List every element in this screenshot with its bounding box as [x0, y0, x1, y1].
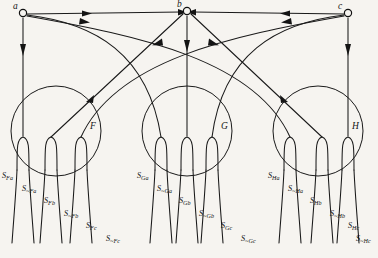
signal-label-not-Ha: S~Ha — [288, 185, 303, 193]
edge-a-to-b — [27, 9, 187, 16]
signal-subscript: Fc — [90, 225, 97, 231]
signal-label-not-Fb: S~Fb — [64, 210, 78, 218]
signal-subscript: Gb — [183, 200, 191, 206]
circle-label-F: F — [90, 122, 96, 132]
signal-subscript: ~Fc — [110, 238, 120, 244]
signal-label-Fc: SFc — [86, 222, 97, 230]
arrowhead-a-to-b-mid — [82, 11, 92, 17]
arrowhead-a-down — [20, 44, 26, 56]
edge-c-vertical — [345, 18, 351, 136]
signal-subscript: ~Ha — [292, 188, 303, 194]
edge-b-vertical — [184, 16, 190, 136]
arrowhead-a-to-G — [79, 18, 90, 25]
signal-label-Hb: SHb — [310, 197, 322, 205]
signal-label-not-Gc: S~Gc — [241, 235, 256, 243]
signal-label-not-Fa: S~Fa — [22, 185, 36, 193]
signal-label-Gc: SGc — [221, 222, 232, 230]
arrowhead-c-to-F — [152, 39, 163, 46]
edge-b-to-F — [51, 14, 183, 137]
node-label-a: a — [13, 2, 18, 12]
arrowhead-b-down — [184, 40, 190, 52]
signal-subscript: ~Fa — [26, 188, 36, 194]
signal-label-Ha: SHa — [268, 172, 280, 180]
signal-subscript: ~Ga — [161, 188, 172, 194]
signal-label-Fb: SFb — [44, 197, 55, 205]
arrowhead-c-down — [345, 44, 351, 56]
signal-subscript: Gc — [225, 225, 232, 231]
signal-label-Gb: SGb — [179, 197, 191, 205]
edge-a-vertical — [20, 18, 26, 136]
edge-a-to-G — [27, 15, 161, 137]
signal-subscript: Hb — [314, 200, 322, 206]
signal-subscript: Fb — [48, 200, 55, 206]
diagram-vector-layer — [0, 0, 378, 258]
signal-subscript: Hc — [352, 225, 359, 231]
diagram-canvas: a b c F G H SFa S~Fa SFb S~Fb SFc S~Fc S… — [0, 0, 378, 258]
circle-label-G: G — [221, 122, 228, 132]
signal-label-not-Gb: S~Gb — [199, 210, 214, 218]
node-label-c: c — [338, 2, 342, 12]
signal-label-not-Hb: S~Hb — [330, 210, 345, 218]
signal-label-not-Fc: S~Fc — [106, 235, 120, 243]
signal-subscript: ~Gc — [245, 238, 256, 244]
signal-subscript: ~Hc — [360, 238, 371, 244]
edge-a-to-H — [27, 16, 290, 137]
node-label-b: b — [177, 0, 182, 10]
edge-c-to-G — [212, 15, 344, 137]
signal-subscript: ~Fb — [68, 213, 78, 219]
signal-label-not-Hc: S~Hc — [356, 235, 371, 243]
arrowhead-c-to-G — [281, 18, 292, 25]
edge-c-to-b — [187, 9, 344, 16]
signal-label-Hc: SHc — [348, 222, 359, 230]
signal-subscript: Ga — [141, 175, 149, 181]
signal-subscript: ~Hb — [334, 213, 345, 219]
signal-label-not-Ga: S~Ga — [157, 185, 172, 193]
signal-subscript: Ha — [272, 175, 280, 181]
arrowhead-c-to-b-mid — [280, 11, 290, 17]
signal-label-Fa: SFa — [2, 172, 13, 180]
edge-b-to-H — [191, 14, 322, 137]
signal-subscript: Fa — [6, 175, 13, 181]
signal-label-Ga: SGa — [137, 172, 149, 180]
circle-label-H: H — [352, 122, 359, 132]
circle-F — [11, 86, 101, 176]
signal-subscript: ~Gb — [203, 213, 214, 219]
